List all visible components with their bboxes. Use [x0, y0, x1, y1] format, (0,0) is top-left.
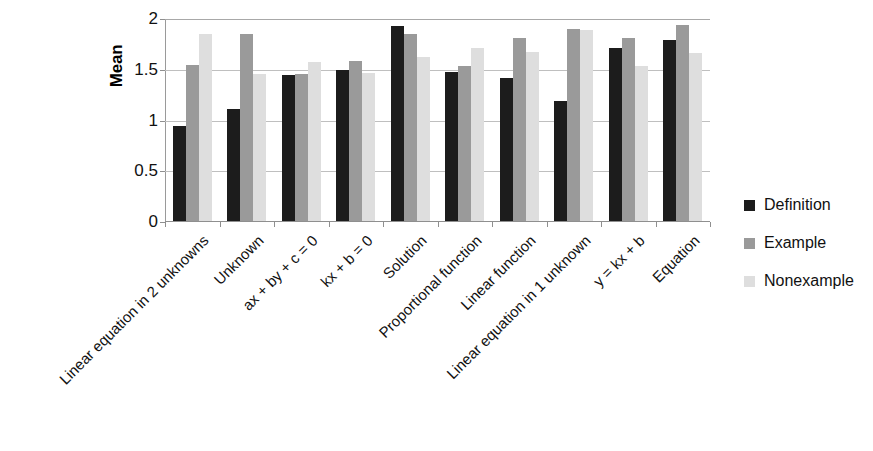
x-axis-category-label: ax + by + c = 0 — [27, 232, 321, 451]
bar-nonexample — [471, 48, 484, 221]
bar-example — [240, 34, 253, 221]
y-axis-tick-labels: 00.511.52 — [112, 0, 158, 240]
bar-example — [404, 34, 417, 221]
x-axis-tick — [274, 222, 275, 227]
x-axis-tick — [710, 222, 711, 227]
bar-example — [295, 74, 308, 221]
legend-item-definition: Definition — [744, 186, 872, 224]
bar-example — [513, 38, 526, 221]
y-axis-tick — [160, 121, 165, 122]
x-axis-tick — [383, 222, 384, 227]
bar-definition — [282, 75, 295, 221]
y-axis-tick-label: 0 — [112, 213, 158, 230]
legend-item-example: Example — [744, 224, 872, 262]
legend-swatch-example — [744, 238, 755, 249]
bar-nonexample — [253, 74, 266, 221]
x-axis-tick — [547, 222, 548, 227]
x-axis-tick — [165, 222, 166, 227]
bar-chart: Mean 00.511.52 Linear equation in 2 unkn… — [0, 0, 873, 451]
x-axis-tick — [329, 222, 330, 227]
bar-nonexample — [417, 57, 430, 221]
bar-nonexample — [199, 34, 212, 221]
y-axis-tick-label: 0.5 — [112, 162, 158, 179]
y-axis-tick — [160, 70, 165, 71]
x-axis-tick — [438, 222, 439, 227]
y-axis-tick-label: 1 — [112, 112, 158, 129]
bar-nonexample — [362, 73, 375, 221]
x-axis-tick — [492, 222, 493, 227]
bar-definition — [173, 126, 186, 221]
x-axis-tick — [656, 222, 657, 227]
legend-item-nonexample: Nonexample — [744, 262, 872, 300]
bar-nonexample — [526, 52, 539, 222]
x-axis-tick — [601, 222, 602, 227]
x-axis-category-label: Linear function — [245, 232, 539, 451]
x-axis-category-label: Proportional function — [190, 232, 484, 451]
bar-example — [349, 61, 362, 221]
bar-example — [622, 38, 635, 221]
legend-label: Nonexample — [764, 273, 854, 289]
x-axis-category-label: Solution — [136, 232, 430, 451]
x-axis-category-label: Linear equation in 1 unknown — [299, 232, 593, 451]
bar-example — [186, 65, 199, 221]
bar-definition — [336, 70, 349, 221]
x-axis-category-label: Linear equation in 2 unknowns — [0, 232, 212, 451]
bar-definition — [554, 101, 567, 221]
x-axis-category-label: y = kx + b — [354, 232, 648, 451]
bar-definition — [227, 109, 240, 221]
bar-nonexample — [689, 53, 702, 221]
y-axis-tick-label: 2 — [112, 10, 158, 27]
legend-swatch-definition — [744, 200, 755, 211]
bar-definition — [445, 72, 458, 221]
x-axis-category-label: Unknown — [0, 232, 266, 451]
bar-definition — [663, 40, 676, 221]
y-axis-tick — [160, 171, 165, 172]
bar-nonexample — [580, 30, 593, 221]
y-axis-tick-label: 1.5 — [112, 61, 158, 78]
legend-label: Example — [764, 235, 826, 251]
bar-example — [458, 66, 471, 221]
legend-label: Definition — [764, 197, 831, 213]
bar-definition — [500, 78, 513, 221]
bar-example — [567, 29, 580, 221]
bar-definition — [391, 26, 404, 221]
bar-definition — [609, 48, 622, 221]
chart-legend: DefinitionExampleNonexample — [744, 186, 872, 300]
x-axis-category-label: kx + b = 0 — [81, 232, 375, 451]
plot-area — [165, 19, 710, 222]
bar-nonexample — [308, 62, 321, 221]
x-axis-category-label: Equation — [408, 232, 702, 451]
legend-swatch-nonexample — [744, 276, 755, 287]
y-axis-tick — [160, 19, 165, 20]
gridline — [165, 19, 710, 20]
bar-example — [676, 25, 689, 221]
bar-nonexample — [635, 66, 648, 221]
x-axis-tick — [220, 222, 221, 227]
